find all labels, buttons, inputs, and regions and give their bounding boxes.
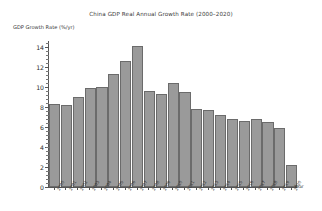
bar [227, 119, 238, 187]
y-tick-label: 14 [36, 44, 44, 51]
y-tick-label: 2 [40, 164, 44, 171]
x-axis-label: Year [294, 184, 304, 189]
bar [274, 128, 285, 188]
y-tick-label: 12 [36, 64, 44, 71]
bar [262, 122, 273, 188]
bar [132, 46, 143, 188]
y-axis-label: GDP Growth Rate (%/yr) [13, 24, 75, 30]
y-tick-label: 0 [40, 184, 44, 191]
bar [156, 94, 167, 188]
bar [239, 121, 250, 187]
bar [73, 97, 84, 188]
y-tick-label: 6 [40, 124, 44, 131]
bar [49, 104, 60, 187]
bar [96, 87, 107, 188]
bar [179, 92, 190, 187]
y-tick-label: 10 [36, 84, 44, 91]
chart-figure: China GDP Real Annual Growth Rate (2000–… [0, 0, 322, 211]
chart-title: China GDP Real Annual Growth Rate (2000–… [0, 11, 322, 17]
bar [215, 115, 226, 188]
y-tick-label: 8 [40, 104, 44, 111]
bar [120, 61, 131, 188]
x-axis-tick-labels: 2000200120022003200420052006200720082009… [49, 188, 298, 211]
bar [61, 105, 72, 188]
plot-area: 02468101214 2000200120022003200420052006… [48, 41, 298, 187]
bar [191, 109, 202, 188]
bar [203, 110, 214, 188]
bar [251, 119, 262, 187]
bar [85, 88, 96, 188]
bar-series [49, 41, 298, 187]
bar [168, 83, 179, 188]
y-axis-tick-labels: 02468101214 [26, 41, 44, 187]
bar [108, 74, 119, 188]
y-tick-label: 4 [40, 144, 44, 151]
bar [144, 91, 155, 187]
